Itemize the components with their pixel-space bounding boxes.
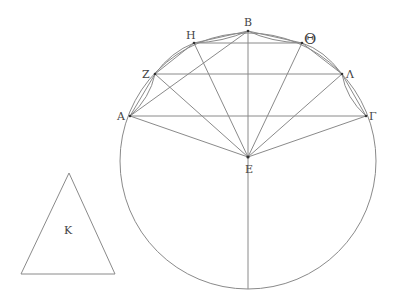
line-E-Theta (248, 43, 302, 157)
diagram-canvas: Α Ζ Η Β Θ Λ Γ Ε Κ (0, 0, 397, 308)
label-B: Β (244, 16, 252, 29)
point-E (246, 155, 249, 158)
geometry-lines (21, 31, 376, 289)
point-B (247, 30, 250, 33)
label-Theta: Θ (304, 30, 316, 48)
label-Gamma: Γ (369, 110, 377, 123)
point-Lambda (341, 73, 344, 76)
line-E-A (130, 116, 248, 157)
point-H (193, 42, 196, 45)
label-K: Κ (64, 224, 73, 237)
point-A (129, 115, 132, 118)
label-Z: Ζ (142, 68, 150, 81)
label-A: Α (116, 110, 126, 123)
line-E-Gamma (248, 116, 366, 157)
label-H: Η (186, 29, 196, 42)
label-Lambda: Λ (345, 68, 355, 81)
label-E: Ε (245, 163, 253, 176)
point-Z (154, 73, 157, 76)
line-E-H (194, 43, 248, 157)
side-B-Theta (248, 31, 302, 43)
side-Z-H (155, 43, 194, 74)
point-Theta (301, 42, 304, 45)
point-Gamma (365, 115, 368, 118)
